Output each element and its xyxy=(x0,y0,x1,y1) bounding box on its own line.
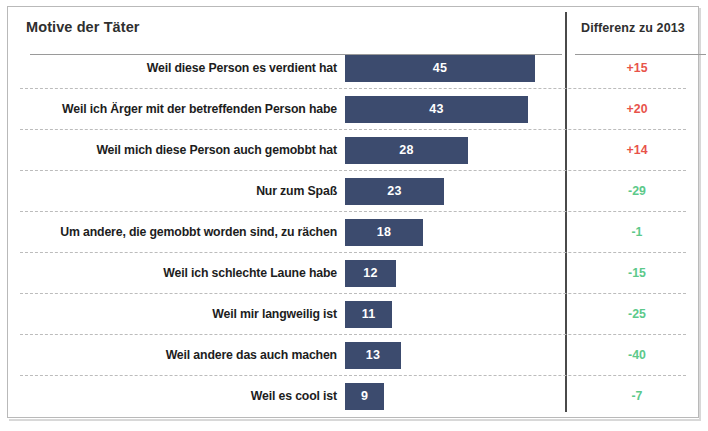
table-row: Weil diese Person es verdient hat45+15 xyxy=(8,48,698,89)
bar-value-label: 12 xyxy=(345,260,396,287)
row-label: Weil ich Ärger mit der betreffenden Pers… xyxy=(20,89,337,130)
table-row: Weil ich Ärger mit der betreffenden Pers… xyxy=(8,89,698,130)
diff-value: +14 xyxy=(575,130,699,171)
row-label: Weil mir langweilig ist xyxy=(20,294,337,335)
bar-value-label: 28 xyxy=(345,137,468,164)
bar-value-label: 18 xyxy=(345,219,423,246)
row-label: Weil es cool ist xyxy=(20,376,337,417)
diff-value: -15 xyxy=(575,253,699,294)
bar-value-label: 23 xyxy=(345,178,444,205)
table-row: Um andere, die gemobbt worden sind, zu r… xyxy=(8,212,698,253)
bar-area: 13 xyxy=(345,335,567,376)
bar-area: 28 xyxy=(345,130,567,171)
table-row: Weil mir langweilig ist11-25 xyxy=(8,294,698,335)
bar-value-label: 45 xyxy=(345,55,535,82)
page-title: Motive der Täter xyxy=(26,19,140,35)
table-row: Weil ich schlechte Laune habe12-15 xyxy=(8,253,698,294)
diff-value: +20 xyxy=(575,89,699,130)
diff-column-header: Differenz zu 2013 xyxy=(581,21,685,35)
bar-area: 11 xyxy=(345,294,567,335)
table-row: Weil es cool ist9-7 xyxy=(8,376,698,417)
diff-value: -29 xyxy=(575,171,699,212)
bar-value-label: 13 xyxy=(345,342,401,369)
bar-area: 43 xyxy=(345,89,567,130)
table-row: Weil mich diese Person auch gemobbt hat2… xyxy=(8,130,698,171)
table-row: Nur zum Spaß23-29 xyxy=(8,171,698,212)
diff-value: -40 xyxy=(575,335,699,376)
row-label: Weil ich schlechte Laune habe xyxy=(20,253,337,294)
row-label: Nur zum Spaß xyxy=(20,171,337,212)
diff-value: +15 xyxy=(575,48,699,89)
row-label: Weil andere das auch machen xyxy=(20,335,337,376)
bar-area: 45 xyxy=(345,48,567,89)
frame-shadow-bottom xyxy=(9,419,701,421)
diff-value: -1 xyxy=(575,212,699,253)
row-label: Weil mich diese Person auch gemobbt hat xyxy=(20,130,337,171)
table-row: Weil andere das auch machen13-40 xyxy=(8,335,698,376)
bar-area: 23 xyxy=(345,171,567,212)
row-label: Um andere, die gemobbt worden sind, zu r… xyxy=(20,212,337,253)
diff-value: -25 xyxy=(575,294,699,335)
bar-area: 12 xyxy=(345,253,567,294)
bar-area: 18 xyxy=(345,212,567,253)
row-label: Weil diese Person es verdient hat xyxy=(20,48,337,89)
diff-value: -7 xyxy=(575,376,699,417)
chart-header: Motive der Täter Differenz zu 2013 xyxy=(8,7,698,48)
bar-value-label: 11 xyxy=(345,301,392,328)
bar-value-label: 9 xyxy=(345,383,384,410)
frame-shadow-right xyxy=(699,8,701,420)
bar-value-label: 43 xyxy=(345,96,528,123)
chart-container: Motive der Täter Differenz zu 2013 Weil … xyxy=(0,0,708,431)
bar-area: 9 xyxy=(345,376,567,417)
chart-rows: Weil diese Person es verdient hat45+15We… xyxy=(8,48,698,417)
